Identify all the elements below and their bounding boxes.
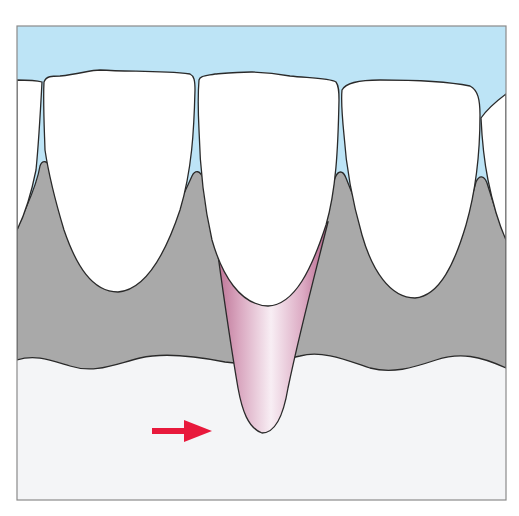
dental-diagram (0, 0, 519, 516)
